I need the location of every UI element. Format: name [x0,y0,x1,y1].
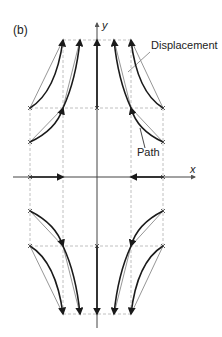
x-axis-label: x [190,164,196,175]
axes [13,23,195,328]
path-annotation: Path [137,147,160,158]
panel-label: (b) [13,24,28,36]
displacement-annotation: Displacement [151,40,218,51]
y-axis-label: y [102,20,108,31]
diagram-figure: (b) y x Displacement Path [0,0,222,337]
